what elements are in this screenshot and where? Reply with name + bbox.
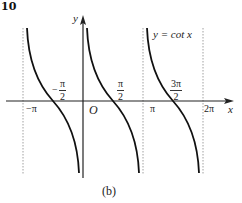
origin-label: O xyxy=(89,104,98,116)
tick-label-2pi: 2π xyxy=(204,104,214,114)
tick-label-pi: π xyxy=(150,104,155,114)
zero-label-neg-half-pi: − π 2 xyxy=(59,79,66,102)
y-axis-label: y xyxy=(73,13,78,24)
x-axis-label: x xyxy=(228,104,233,115)
function-label: y = cot x xyxy=(153,29,192,40)
cot-graph-figure: 10 y x O y = cot x −π π 2π − π 2 π xyxy=(0,0,242,203)
zero-label-three-half-pi: 3π 2 xyxy=(170,79,182,102)
tick-label-neg-pi: −π xyxy=(26,104,37,114)
zero-label-half-pi: π 2 xyxy=(117,79,124,102)
figure-caption: (b) xyxy=(102,184,116,199)
